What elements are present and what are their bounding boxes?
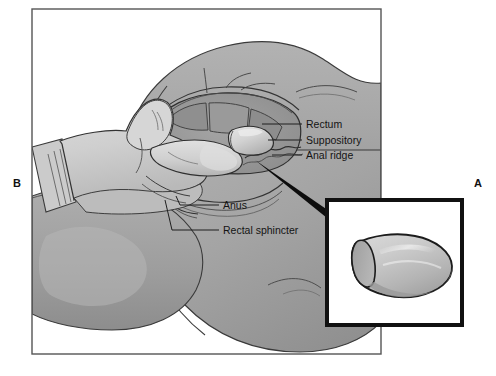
illustration-canvas: Rectum Suppository Anal ridge Anus Recta… — [0, 0, 496, 376]
label-rectal-sphincter: Rectal sphincter — [223, 224, 299, 236]
inset-artwork — [352, 234, 452, 297]
label-suppository: Suppository — [306, 134, 362, 146]
suppository-in-situ — [229, 126, 274, 155]
suppository-inset-panel — [325, 198, 464, 327]
label-rectum: Rectum — [306, 118, 342, 130]
panel-letter-b: B — [13, 177, 21, 189]
medical-figure: Rectum Suppository Anal ridge Anus Recta… — [0, 0, 496, 376]
label-anus: Anus — [223, 199, 247, 211]
panel-letter-a: A — [474, 177, 482, 189]
label-anal-ridge: Anal ridge — [306, 149, 353, 161]
